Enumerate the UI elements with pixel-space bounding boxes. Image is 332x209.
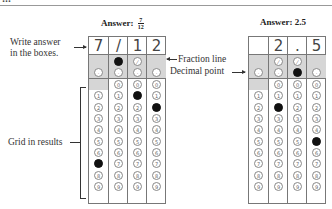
digit-bubble-1[interactable]: 1 bbox=[152, 91, 161, 100]
digit-bubble-0[interactable]: 0 bbox=[114, 80, 123, 89]
digit-bubble-8[interactable]: 8 bbox=[133, 171, 142, 180]
answer-box[interactable] bbox=[249, 37, 268, 55]
digit-bubble-9[interactable]: 9 bbox=[293, 182, 302, 191]
digit-bubble-1[interactable]: 1 bbox=[293, 91, 302, 100]
decimal-bubble[interactable]: · bbox=[312, 68, 321, 77]
digit-bubble-9[interactable]: 9 bbox=[312, 182, 321, 191]
digit-bubble-4[interactable]: 4 bbox=[114, 125, 123, 134]
digit-bubble-5[interactable]: 5 bbox=[293, 137, 302, 146]
digit-bubble-0[interactable]: 0 bbox=[274, 80, 283, 89]
digit-bubble-9[interactable]: 9 bbox=[114, 182, 123, 191]
digit-bubble-6[interactable]: 6 bbox=[274, 148, 283, 157]
digit-bubble-7[interactable]: 7 bbox=[293, 159, 302, 168]
digit-bubble-3[interactable]: 3 bbox=[114, 114, 123, 123]
digit-bubble-1[interactable]: 1 bbox=[274, 91, 283, 100]
digit-bubble-9[interactable]: 9 bbox=[274, 182, 283, 191]
digit-bubble-3[interactable]: 3 bbox=[274, 114, 283, 123]
digit-bubble-7[interactable]: 7 bbox=[312, 159, 321, 168]
digit-bubble-2[interactable]: 2 bbox=[274, 103, 283, 112]
digit-bubble-7[interactable]: 7 bbox=[274, 159, 283, 168]
digit-bubble-4[interactable]: 4 bbox=[274, 125, 283, 134]
answer-box[interactable]: . bbox=[288, 37, 307, 55]
digit-bubble-5[interactable]: 5 bbox=[274, 137, 283, 146]
digit-bubble-5[interactable]: 5 bbox=[152, 137, 161, 146]
digit-bubble-7[interactable]: 7 bbox=[114, 159, 123, 168]
answer-box[interactable]: 7 bbox=[89, 37, 108, 55]
answer-box[interactable]: 1 bbox=[128, 37, 147, 55]
digit-bubble-6[interactable]: 6 bbox=[312, 148, 321, 157]
digit-bubble-5[interactable]: 5 bbox=[133, 137, 142, 146]
digit-bubble-7[interactable]: 7 bbox=[133, 159, 142, 168]
digit-bubble-3[interactable]: 3 bbox=[312, 114, 321, 123]
digit-bubble-3[interactable]: 3 bbox=[133, 114, 142, 123]
decimal-bubble[interactable]: · bbox=[274, 68, 283, 77]
digit-bubble-1[interactable]: 1 bbox=[312, 91, 321, 100]
slash-bubble[interactable]: ⁄ bbox=[274, 57, 283, 66]
decimal-bubble[interactable]: · bbox=[114, 68, 123, 77]
digit-bubble-8[interactable]: 8 bbox=[312, 171, 321, 180]
digit-bubble-8[interactable]: 8 bbox=[114, 171, 123, 180]
digit-bubble-2[interactable]: 2 bbox=[293, 103, 302, 112]
digit-bubble-5[interactable]: 5 bbox=[114, 137, 123, 146]
digit-bubble-7[interactable]: 7 bbox=[94, 159, 103, 168]
digit-bubble-3[interactable]: 3 bbox=[94, 114, 103, 123]
digit-bubble-9[interactable]: 9 bbox=[133, 182, 142, 191]
digit-bubble-2[interactable]: 2 bbox=[94, 103, 103, 112]
digit-bubble-8[interactable]: 8 bbox=[293, 171, 302, 180]
digit-bubble-5[interactable]: 5 bbox=[254, 137, 263, 146]
digit-bubble-7[interactable]: 7 bbox=[152, 159, 161, 168]
digit-bubble-8[interactable]: 8 bbox=[94, 171, 103, 180]
digit-bubble-4[interactable]: 4 bbox=[312, 125, 321, 134]
digit-bubble-1[interactable]: 1 bbox=[133, 91, 142, 100]
digit-bubble-8[interactable]: 8 bbox=[152, 171, 161, 180]
digit-bubble-0[interactable]: 0 bbox=[133, 80, 142, 89]
digit-bubble-4[interactable]: 4 bbox=[254, 125, 263, 134]
digit-bubble-0[interactable]: 0 bbox=[152, 80, 161, 89]
digit-bubble-6[interactable]: 6 bbox=[114, 148, 123, 157]
digit-bubble-1[interactable]: 1 bbox=[114, 91, 123, 100]
digit-bubble-1[interactable]: 1 bbox=[254, 91, 263, 100]
digit-bubble-6[interactable]: 6 bbox=[152, 148, 161, 157]
digit-bubble-3[interactable]: 3 bbox=[254, 114, 263, 123]
header-rule: … bbox=[0, 0, 332, 6]
digit-bubble-2[interactable]: 2 bbox=[254, 103, 263, 112]
answer-box[interactable]: 2 bbox=[269, 37, 288, 55]
digit-bubble-4[interactable]: 4 bbox=[133, 125, 142, 134]
digit-bubble-3[interactable]: 3 bbox=[152, 114, 161, 123]
digit-bubble-9[interactable]: 9 bbox=[152, 182, 161, 191]
digit-bubble-6[interactable]: 6 bbox=[254, 148, 263, 157]
digit-bubble-9[interactable]: 9 bbox=[94, 182, 103, 191]
answer-box[interactable]: 2 bbox=[147, 37, 166, 55]
digit-bubble-3[interactable]: 3 bbox=[293, 114, 302, 123]
digit-bubble-4[interactable]: 4 bbox=[152, 125, 161, 134]
digit-bubble-1[interactable]: 1 bbox=[94, 91, 103, 100]
digit-bubble-8[interactable]: 8 bbox=[254, 171, 263, 180]
digit-bubble-6[interactable]: 6 bbox=[133, 148, 142, 157]
digit-bubble-6[interactable]: 6 bbox=[293, 148, 302, 157]
digit-bubble-5[interactable]: 5 bbox=[94, 137, 103, 146]
decimal-bubble[interactable]: · bbox=[293, 68, 302, 77]
digit-bubble-0[interactable]: 0 bbox=[312, 80, 321, 89]
slash-bubble[interactable]: ⁄ bbox=[293, 57, 302, 66]
digit-bubble-0[interactable]: 0 bbox=[293, 80, 302, 89]
digit-bubble-9[interactable]: 9 bbox=[254, 182, 263, 191]
digit-bubble-2[interactable]: 2 bbox=[152, 103, 161, 112]
decimal-bubble[interactable]: · bbox=[94, 68, 103, 77]
answer-box[interactable]: 5 bbox=[307, 37, 326, 55]
digit-bubble-4[interactable]: 4 bbox=[293, 125, 302, 134]
digit-bubble-5[interactable]: 5 bbox=[312, 137, 321, 146]
digit-bubble-8[interactable]: 8 bbox=[274, 171, 283, 180]
right-column-4: 5·0123456789 bbox=[306, 37, 326, 203]
answer-box[interactable]: / bbox=[109, 37, 128, 55]
decimal-bubble[interactable]: · bbox=[152, 68, 161, 77]
decimal-bubble[interactable]: · bbox=[254, 68, 263, 77]
digit-bubble-7[interactable]: 7 bbox=[254, 159, 263, 168]
digit-bubble-4[interactable]: 4 bbox=[94, 125, 103, 134]
slash-bubble[interactable]: ⁄ bbox=[133, 57, 142, 66]
digit-bubble-2[interactable]: 2 bbox=[133, 103, 142, 112]
slash-bubble[interactable]: ⁄ bbox=[114, 57, 123, 66]
digit-bubble-2[interactable]: 2 bbox=[312, 103, 321, 112]
digit-bubble-2[interactable]: 2 bbox=[114, 103, 123, 112]
digit-bubble-6[interactable]: 6 bbox=[94, 148, 103, 157]
decimal-bubble[interactable]: · bbox=[133, 68, 142, 77]
